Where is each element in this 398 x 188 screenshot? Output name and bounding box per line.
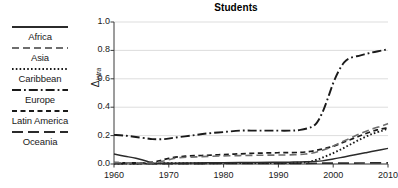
chart-canvas — [82, 0, 390, 188]
legend-label: Asia — [31, 52, 49, 63]
x-tick-label: 1980 — [214, 170, 234, 180]
legend-label: Africa — [28, 31, 52, 42]
y-tick-label: 0.6 — [97, 73, 110, 83]
legend-swatch-longdash — [11, 127, 69, 136]
y-tick-label: 0.0 — [97, 158, 110, 168]
legend-swatch-dotted — [11, 64, 69, 73]
legend-label: Oceania — [23, 136, 58, 147]
legend-item-asia[interactable]: Asia — [1, 43, 79, 63]
legend-swatch-solid — [11, 22, 69, 31]
y-tick-label: 0.4 — [97, 101, 110, 111]
y-tick-label: 0.2 — [97, 130, 110, 140]
plot-area: Students Δintra 0.00.20.40.60.81.0 19601… — [82, 0, 390, 188]
legend-item-europe[interactable]: Europe — [1, 85, 79, 105]
y-tick-label: 0.8 — [97, 44, 110, 54]
legend-swatch-shortdash — [11, 106, 69, 115]
legend-item-latin-america[interactable]: Latin America — [1, 106, 79, 126]
series-line-europe — [114, 49, 388, 139]
legend-swatch-dashdot — [11, 85, 69, 94]
chart-title: Students — [82, 2, 390, 13]
x-tick-label: 1960 — [104, 170, 124, 180]
chart-legend: AfricaAsiaCaribbeanEuropeLatin AmericaOc… — [0, 22, 80, 148]
x-tick-label: 2000 — [323, 170, 343, 180]
legend-label: Latin America — [12, 115, 68, 126]
x-tick-label: 1990 — [268, 170, 288, 180]
x-tick-label: 1970 — [159, 170, 179, 180]
legend-label: Europe — [25, 94, 55, 105]
legend-item-oceania[interactable]: Oceania — [1, 127, 79, 147]
legend-item-africa[interactable]: Africa — [1, 22, 79, 42]
y-tick-label: 1.0 — [97, 16, 110, 26]
x-tick-label: 2010 — [378, 170, 398, 180]
series-line-caribbean — [114, 129, 388, 164]
legend-label: Caribbean — [19, 73, 62, 84]
legend-swatch-dashed — [11, 43, 69, 52]
legend-item-caribbean[interactable]: Caribbean — [1, 64, 79, 84]
